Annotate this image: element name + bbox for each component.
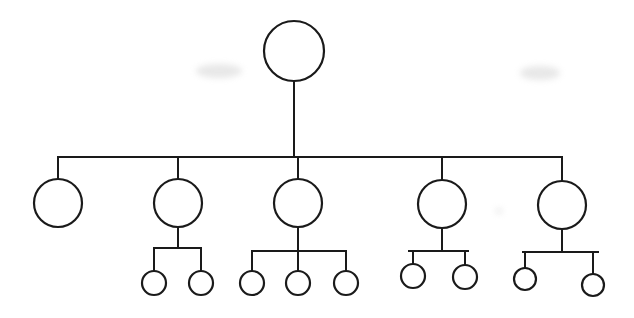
leaf-node [514,268,536,290]
leaf-node [453,265,477,289]
level1-node [154,179,202,227]
level1-node [418,180,466,228]
level1-node [274,179,322,227]
level1-node [34,179,82,227]
leaf-node [334,271,358,295]
leaf-node [189,271,213,295]
leaf-node [142,271,166,295]
leaf-node [240,271,264,295]
root-node [264,21,324,81]
org-tree-diagram [0,0,634,318]
leaf-node [286,271,310,295]
leaf-node [582,274,604,296]
level1-node [538,181,586,229]
leaf-node [401,264,425,288]
